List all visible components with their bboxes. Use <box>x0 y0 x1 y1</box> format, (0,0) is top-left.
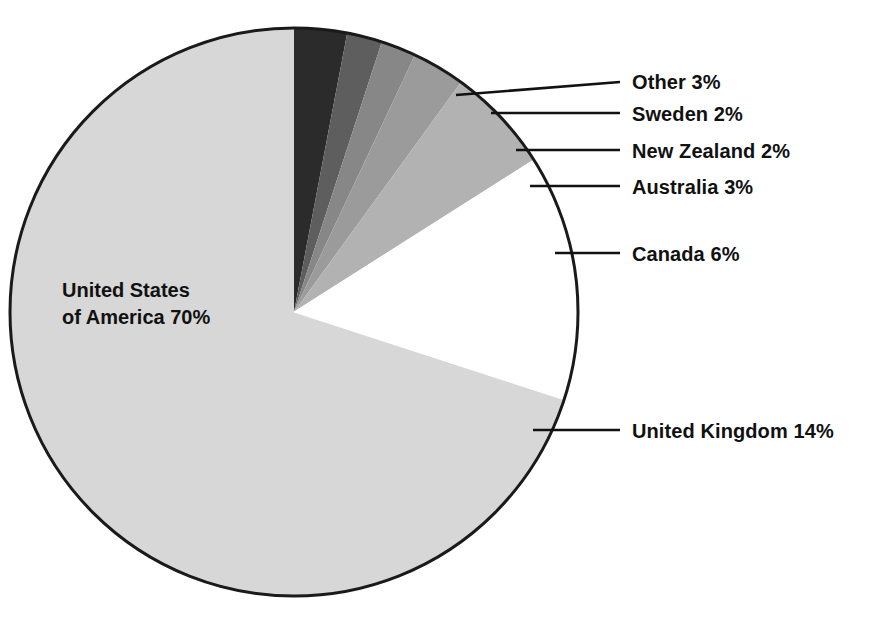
slice-label-united-kingdom: United Kingdom 14% <box>632 420 834 442</box>
slice-label-united-states-of-america: United States of America 70% <box>62 277 210 331</box>
slice-label-other: Other 3% <box>632 71 721 93</box>
pie-chart-figure: Other 3%Sweden 2%New Zealand 2%Australia… <box>0 0 874 618</box>
leader-line-other <box>456 82 620 95</box>
slice-label-sweden: Sweden 2% <box>632 103 743 125</box>
slice-label-canada: Canada 6% <box>632 243 740 265</box>
slice-label-new-zealand: New Zealand 2% <box>632 140 790 162</box>
slice-label-australia: Australia 3% <box>632 176 753 198</box>
